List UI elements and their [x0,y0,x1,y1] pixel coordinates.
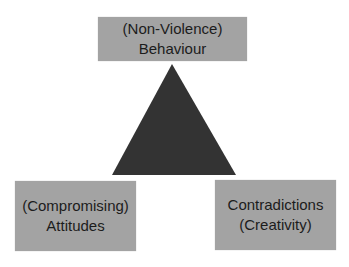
node-behaviour: (Non-Violence) Behaviour [98,17,247,61]
node-attitudes: (Compromising) Attitudes [15,181,136,251]
node-contradictions: Contradictions (Creativity) [215,180,336,250]
node-contradictions-line-2: (Creativity) [239,215,312,235]
node-attitudes-line-1: (Compromising) [22,196,129,216]
node-behaviour-line-2: Behaviour [139,39,207,59]
node-contradictions-line-1: Contradictions [228,195,324,215]
node-behaviour-line-1: (Non-Violence) [123,19,223,39]
node-attitudes-line-2: Attitudes [46,216,104,236]
